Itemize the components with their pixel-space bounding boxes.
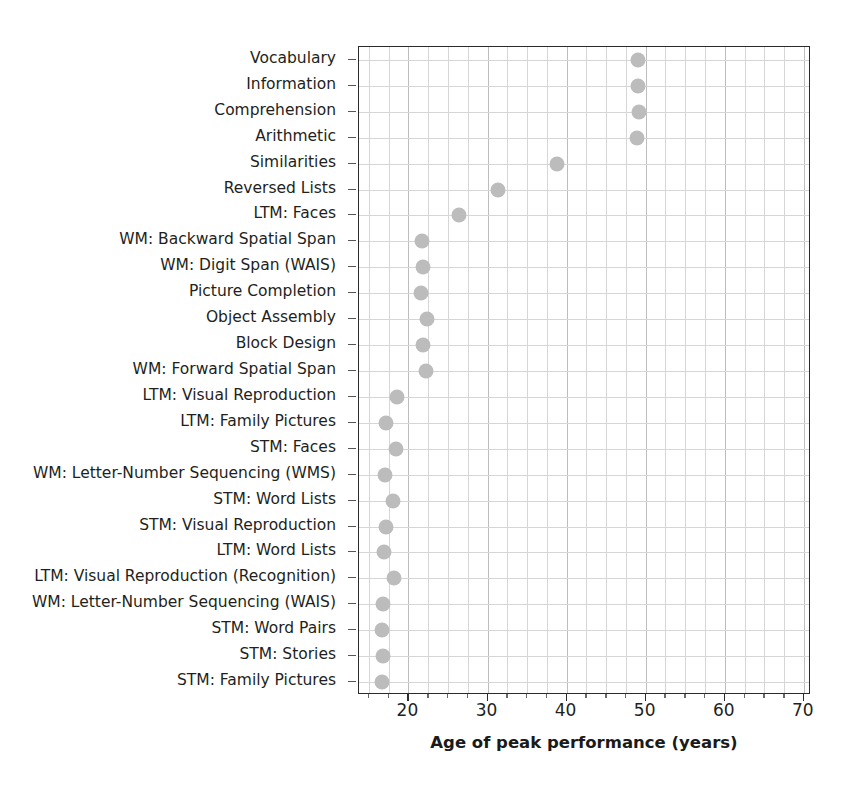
y-tick-mark: [348, 85, 356, 86]
x-tick-minor: [388, 694, 389, 698]
y-tick-mark: [348, 474, 356, 475]
data-point: [376, 597, 391, 612]
data-point: [375, 623, 390, 638]
data-point: [415, 338, 430, 353]
data-point: [390, 389, 405, 404]
y-tick-mark: [348, 59, 356, 60]
gridline-horizontal: [359, 112, 809, 113]
y-tick-mark: [348, 214, 356, 215]
y-tick-mark: [348, 111, 356, 112]
y-tick-mark: [348, 137, 356, 138]
x-tick-minor: [783, 694, 784, 698]
gridline-horizontal: [359, 475, 809, 476]
data-point: [376, 649, 391, 664]
x-tick-minor: [763, 694, 764, 698]
gridline-vertical-minor: [507, 47, 508, 693]
category-label: WM: Letter-Number Sequencing (WMS): [33, 466, 336, 482]
x-axis-ticks: [358, 694, 810, 702]
chart-figure: VocabularyInformationComprehensionArithm…: [0, 0, 854, 788]
x-tick-minor: [605, 694, 606, 698]
gridline-vertical-minor: [547, 47, 548, 693]
x-tick-minor: [546, 694, 547, 698]
x-tick-label: 60: [713, 702, 735, 719]
data-point: [388, 441, 403, 456]
category-label: Reversed Lists: [224, 181, 336, 197]
gridline-vertical-major: [567, 47, 568, 693]
gridline-vertical-minor: [369, 47, 370, 693]
gridline-horizontal: [359, 397, 809, 398]
data-point: [379, 415, 394, 430]
data-point: [379, 519, 394, 534]
gridline-horizontal: [359, 682, 809, 683]
x-tick-minor: [664, 694, 665, 698]
data-point: [386, 493, 401, 508]
gridline-vertical-minor: [626, 47, 627, 693]
y-tick-mark: [348, 370, 356, 371]
data-point: [418, 364, 433, 379]
category-label: STM: Faces: [250, 440, 336, 456]
data-point: [415, 260, 430, 275]
category-label: WM: Digit Span (WAIS): [160, 259, 336, 275]
x-tick-minor: [704, 694, 705, 698]
gridline-vertical-minor: [764, 47, 765, 693]
category-label: STM: Word Pairs: [212, 621, 337, 637]
category-axis-labels: VocabularyInformationComprehensionArithm…: [0, 46, 348, 694]
plot-area: [358, 46, 810, 694]
gridline-vertical-minor: [705, 47, 706, 693]
x-tick-minor: [467, 694, 468, 698]
gridline-vertical-minor: [745, 47, 746, 693]
y-tick-mark: [348, 240, 356, 241]
gridline-vertical-major: [488, 47, 489, 693]
x-tick-label: 70: [792, 702, 814, 719]
data-point: [414, 286, 429, 301]
category-label: Vocabulary: [250, 51, 336, 67]
gridline-horizontal: [359, 656, 809, 657]
gridline-vertical-minor: [527, 47, 528, 693]
y-tick-mark: [348, 681, 356, 682]
category-label: LTM: Visual Reproduction (Recognition): [34, 570, 336, 586]
category-label: STM: Family Pictures: [177, 673, 336, 689]
gridline-vertical-minor: [468, 47, 469, 693]
data-point: [550, 156, 565, 171]
category-label: Block Design: [236, 336, 336, 352]
data-point: [419, 312, 434, 327]
gridline-horizontal: [359, 501, 809, 502]
gridline-horizontal: [359, 604, 809, 605]
y-tick-mark: [348, 577, 356, 578]
gridline-vertical-minor: [586, 47, 587, 693]
y-tick-mark: [348, 344, 356, 345]
y-tick-mark: [348, 422, 356, 423]
y-tick-mark: [348, 396, 356, 397]
gridline-horizontal: [359, 86, 809, 87]
category-label: STM: Stories: [239, 647, 336, 663]
gridline-vertical-major: [408, 47, 409, 693]
x-tick-minor: [526, 694, 527, 698]
y-tick-mark: [348, 500, 356, 501]
gridline-horizontal: [359, 527, 809, 528]
category-label: STM: Visual Reproduction: [139, 518, 336, 534]
category-label: STM: Word Lists: [213, 492, 336, 508]
x-tick-label: 20: [397, 702, 419, 719]
gridline-vertical-major: [804, 47, 805, 693]
data-point: [387, 571, 402, 586]
category-label: Object Assembly: [206, 310, 336, 326]
gridline-vertical-minor: [685, 47, 686, 693]
data-point: [376, 545, 391, 560]
y-tick-mark: [348, 526, 356, 527]
data-point: [490, 182, 505, 197]
data-point: [630, 78, 645, 93]
category-label: LTM: Faces: [253, 207, 336, 223]
y-tick-mark: [348, 603, 356, 604]
data-point: [452, 208, 467, 223]
data-point: [630, 52, 645, 67]
gridline-vertical-minor: [389, 47, 390, 693]
gridline-horizontal: [359, 164, 809, 165]
gridline-vertical-major: [725, 47, 726, 693]
category-label: WM: Letter-Number Sequencing (WAIS): [32, 596, 336, 612]
category-label: Information: [246, 77, 336, 93]
x-tick-minor: [625, 694, 626, 698]
category-label: Similarities: [250, 155, 336, 171]
x-axis-title: Age of peak performance (years): [358, 733, 810, 752]
gridline-horizontal: [359, 630, 809, 631]
category-label: LTM: Family Pictures: [180, 414, 336, 430]
